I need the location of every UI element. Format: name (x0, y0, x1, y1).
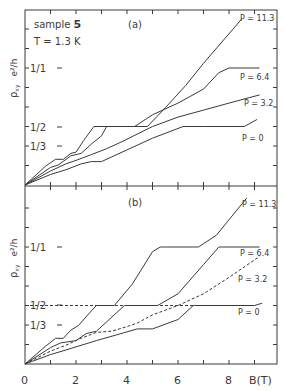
svg-text:ρxye²/h: ρxye²/h (8, 239, 21, 278)
x-tick-label-0: 0 (21, 374, 28, 387)
label-p32-a: P = 3.2 (244, 99, 273, 108)
sample-label: sample 5 (34, 18, 81, 31)
curve-p-0 (25, 303, 262, 364)
curve-p-0 (25, 120, 257, 186)
x-axis-label: B(T) (249, 374, 272, 387)
x-tick-label-6: 6 (174, 374, 181, 387)
label-p113-a: P = 11.3 (240, 14, 274, 23)
label-p0-a: P = 0 (242, 134, 264, 143)
label-p0-b: P = 0 (238, 308, 260, 317)
svg-text:ρxye²/h: ρxye²/h (8, 59, 21, 98)
y-axis-label-a: ρxye²/h (8, 59, 21, 98)
y-axis-label-b: ρxye²/h (8, 239, 21, 278)
y-tick-label-1-1-a: 1/1 (30, 63, 46, 74)
y-tick-label-1-1-b: 1/1 (30, 242, 46, 253)
x-tick-marks (51, 10, 255, 364)
label-p113-b: P = 11.3 (242, 200, 276, 209)
x-tick-label-8: 8 (225, 374, 232, 387)
y-tick-label-1-3-b: 1/3 (30, 320, 46, 331)
curve-p-11-3 (25, 198, 247, 364)
label-p64-b: P = 6.4 (240, 249, 269, 258)
y-tick-label-1-2-b: 1/2 (30, 300, 46, 311)
x-tick-label-4: 4 (123, 374, 130, 387)
x-tick-label-2: 2 (72, 374, 79, 387)
temperature-label: T = 1.3 K (33, 36, 81, 47)
label-p32-b: P = 3.2 (238, 275, 267, 284)
panel-b-label: (b) (128, 197, 142, 208)
curve-p-3-2 (25, 256, 260, 364)
figure-canvas: sample 5 T = 1.3 K (a) ρxye²/h ρxye²/h 1… (0, 0, 285, 391)
label-p64-a: P = 6.4 (240, 73, 269, 82)
panel-a-label: (a) (128, 19, 142, 30)
panel-b-curves (25, 198, 262, 364)
y-tick-label-1-3-a: 1/3 (30, 141, 46, 152)
y-tick-label-1-2-a: 1/2 (30, 122, 46, 133)
